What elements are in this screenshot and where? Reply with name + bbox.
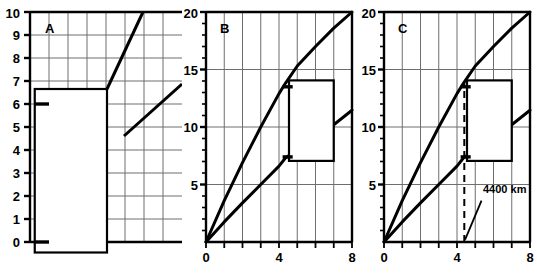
panel-b-mask [289,80,334,160]
panel-b-xtick-4: 4 [275,250,283,265]
panel-a-ytick-4: 4 [13,143,21,158]
panel-c-xtick-4: 4 [453,250,461,265]
panel-b-ytick-5: 5 [191,178,198,193]
panel-a-lower-curve [124,84,182,136]
panel-a-ytick-6: 6 [13,97,20,112]
panel-a-ytick-5: 5 [13,120,20,135]
panel-a-plot: 0 1 2 3 4 5 6 7 8 9 10 A [0,0,182,278]
panel-c-xtick-0: 0 [380,250,387,265]
panel-c-xtick-8: 8 [526,250,533,265]
panel-a-ytick-2: 2 [13,189,20,204]
panel-a-label: A [45,21,55,36]
panel-c-y-tick-labels: 5 10 15 20 [362,6,376,193]
panel-c-ytick-5: 5 [369,178,376,193]
panel-a-ytick-1: 1 [13,212,20,227]
panel-c-ytick-15: 15 [362,63,376,78]
panel-b: 5 10 15 20 0 4 8 B [182,0,360,278]
figure-container: 0 1 2 3 4 5 6 7 8 9 10 A [0,0,537,278]
panel-a-ytick-9: 9 [13,28,20,43]
panel-a-mask [35,89,107,253]
panel-b-y-tick-labels: 5 10 15 20 [184,6,198,193]
panel-a-ytick-3: 3 [13,166,20,181]
panel-c-annotation-label: 4400 km [483,183,527,195]
panel-c-ytick-10: 10 [362,120,376,135]
panel-c-mask [467,80,512,160]
panel-a-y-tick-labels: 0 1 2 3 4 5 6 7 8 9 10 [6,6,21,250]
panel-c-ytick-20: 20 [362,6,376,21]
panel-c: 4400 km 5 10 15 [360,0,537,278]
panel-a-ytick-7: 7 [13,74,20,89]
panel-b-x-tick-labels: 0 4 8 [202,250,355,265]
panel-b-ytick-20: 20 [184,6,198,21]
panel-a-ytick-10: 10 [6,6,20,21]
panel-a-y-axis [24,12,30,242]
panel-b-ytick-10: 10 [184,120,198,135]
panel-b-ytick-15: 15 [184,63,198,78]
panel-b-xtick-8: 8 [348,250,355,265]
panel-b-xtick-0: 0 [202,250,209,265]
panel-c-annotation-leader [465,201,481,240]
panel-b-label: B [220,21,229,36]
panel-c-plot: 4400 km 5 10 15 [360,0,537,278]
panel-c-x-tick-labels: 0 4 8 [380,250,533,265]
panel-a: 0 1 2 3 4 5 6 7 8 9 10 A [0,0,182,278]
panel-a-ytick-8: 8 [13,51,20,66]
panel-b-plot: 5 10 15 20 0 4 8 B [182,0,360,278]
panel-c-label: C [398,21,408,36]
panel-a-ytick-0: 0 [13,235,20,250]
